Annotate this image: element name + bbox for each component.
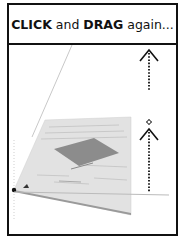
move-cursor-icon[interactable] xyxy=(146,119,152,125)
instruction-panel: CLICK and DRAG again... xyxy=(7,3,178,236)
up-arrow-icon xyxy=(140,50,158,91)
perspective-scene[interactable] xyxy=(9,45,176,234)
instruction-header: CLICK and DRAG again... xyxy=(9,5,176,45)
document-page[interactable] xyxy=(14,117,131,215)
instruction-text: CLICK and DRAG again... xyxy=(11,17,174,32)
up-arrow-icon xyxy=(140,129,158,192)
